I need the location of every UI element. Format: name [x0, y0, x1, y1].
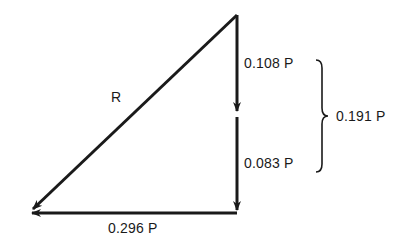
resultant-vector	[33, 15, 237, 209]
horizontal-label: 0.296 P	[108, 220, 158, 236]
upper-vertical-label: 0.108 P	[244, 55, 294, 71]
lower-vertical-label: 0.083 P	[244, 155, 294, 171]
curly-brace	[316, 60, 328, 172]
force-diagram	[0, 0, 420, 252]
brace-sum-label: 0.191 P	[336, 108, 386, 124]
resultant-label: R	[111, 89, 121, 105]
